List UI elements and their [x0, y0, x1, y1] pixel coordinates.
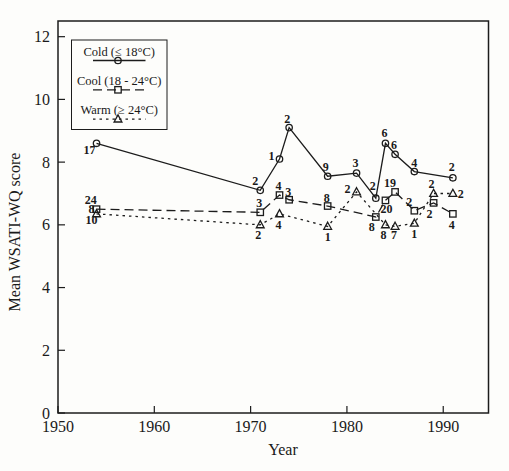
point-count-label: 4 — [276, 179, 282, 193]
point-count-label: 2 — [252, 174, 258, 188]
point-count-label: 2 — [370, 179, 376, 193]
point-count-label: 1 — [269, 149, 275, 163]
point-count-label: 9 — [323, 160, 329, 174]
figure: 1950196019701980199002468101217212932664… — [0, 0, 509, 471]
triangle-marker — [449, 189, 457, 196]
x-tick-label: 1980 — [331, 418, 363, 435]
point-count-label: 2 — [427, 207, 433, 221]
chart-canvas: 1950196019701980199002468101217212932664… — [0, 0, 509, 471]
x-axis-title: Year — [253, 441, 313, 459]
y-tick-label: 12 — [34, 28, 50, 45]
y-tick-label: 10 — [34, 91, 50, 108]
point-count-label: 3 — [285, 185, 291, 199]
square-marker — [450, 211, 456, 217]
point-count-label: 2 — [345, 182, 351, 196]
point-count-label: 2 — [458, 187, 464, 201]
point-count-label: 8 — [380, 228, 386, 242]
point-count-label: 2 — [449, 160, 455, 174]
point-count-label: 2 — [406, 195, 412, 209]
series-cool: 8343882019224 — [89, 176, 457, 234]
point-count-label: 4 — [449, 218, 455, 232]
legend-label: Cool (18 - 24°C) — [77, 74, 162, 88]
point-count-label: 2 — [284, 112, 290, 126]
point-count-label: 20 — [380, 202, 392, 216]
x-axis: 19501960197019801990 — [42, 406, 459, 435]
point-count-label: 8 — [369, 220, 375, 234]
legend-label: Cold (≤ 18°C) — [83, 45, 155, 59]
point-count-label: 19 — [384, 176, 396, 190]
point-count-label: 3 — [256, 196, 262, 210]
y-tick-label: 0 — [42, 405, 50, 422]
point-count-label: 1 — [411, 227, 417, 241]
legend: Cold (≤ 18°C)Cool (18 - 24°C)Warm (≥ 24°… — [72, 40, 168, 130]
y-tick-label: 4 — [42, 279, 50, 296]
point-count-label: 2 — [429, 177, 435, 191]
y-axis-title: Mean WSATI-WQ score — [6, 153, 24, 312]
annotation-label: 24 — [85, 193, 97, 207]
series-cold: 172129326642 — [84, 112, 457, 202]
y-tick-label: 2 — [42, 342, 50, 359]
x-tick-label: 1990 — [427, 418, 459, 435]
x-tick-label: 1960 — [138, 418, 170, 435]
point-count-label: 4 — [411, 156, 417, 170]
point-count-label: 3 — [353, 156, 359, 170]
point-count-label: 8 — [324, 191, 330, 205]
y-tick-label: 6 — [42, 216, 50, 233]
point-count-label: 10 — [86, 213, 98, 227]
point-count-label: 6 — [391, 138, 397, 152]
point-count-label: 6 — [381, 126, 387, 140]
y-axis: 024681012 — [34, 28, 65, 421]
y-tick-label: 8 — [42, 154, 50, 171]
triangle-marker — [276, 210, 284, 217]
legend-label: Warm (≥ 24°C) — [80, 103, 158, 117]
series-line — [97, 192, 453, 217]
point-count-label: 1 — [325, 230, 331, 244]
point-count-label: 17 — [84, 143, 96, 157]
point-count-label: 4 — [276, 218, 282, 232]
point-count-label: 2 — [255, 228, 261, 242]
x-tick-label: 1970 — [235, 418, 267, 435]
point-count-label: 7 — [391, 228, 397, 242]
